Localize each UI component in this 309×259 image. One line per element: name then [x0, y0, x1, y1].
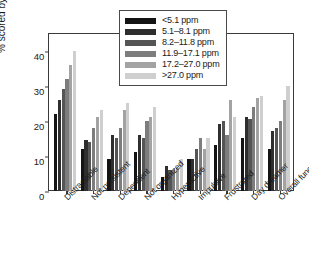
legend-swatch	[125, 18, 156, 24]
bar	[119, 128, 122, 191]
y-axis-tick-label: 40	[34, 51, 49, 61]
y-axis-tick-label: 30	[34, 86, 49, 96]
bar-chart-figure: % scored by teachers 010203040 <5.1 ppm5…	[0, 0, 309, 259]
legend-swatch	[125, 40, 156, 46]
bar	[149, 117, 152, 191]
legend-label: 17.2–27.0 ppm	[162, 60, 219, 69]
legend-label: 8.2–11.8 ppm	[162, 38, 214, 47]
bar	[145, 121, 148, 191]
legend-swatch	[125, 73, 156, 79]
legend-swatch	[125, 51, 156, 57]
bar	[126, 103, 129, 191]
legend-item: 8.2–11.8 ppm	[125, 37, 219, 48]
bar	[256, 98, 259, 191]
bar-group	[241, 33, 264, 191]
bar	[92, 128, 95, 191]
bar	[229, 100, 232, 191]
chart-legend: <5.1 ppm5.1–8.1 ppm8.2–11.8 ppm11.9–17.1…	[119, 10, 227, 86]
bar	[286, 86, 289, 191]
bar	[225, 135, 228, 191]
y-axis-tick-mark	[45, 192, 49, 193]
legend-item: <5.1 ppm	[125, 15, 219, 26]
y-axis-tick-label: 10	[34, 157, 49, 167]
legend-item: 17.2–27.0 ppm	[125, 59, 219, 70]
y-axis-tick-label: 20	[34, 122, 49, 132]
legend-item: 5.1–8.1 ppm	[125, 26, 219, 37]
bar	[123, 110, 126, 191]
bar	[279, 121, 282, 191]
bar	[142, 138, 145, 191]
legend-label: 5.1–8.1 ppm	[162, 27, 210, 36]
bar	[73, 51, 76, 191]
legend-swatch	[125, 29, 156, 35]
bar	[260, 96, 263, 191]
bar	[153, 107, 156, 191]
bar	[69, 65, 72, 191]
bar	[65, 79, 68, 191]
legend-label: <5.1 ppm	[162, 16, 198, 25]
bar	[96, 117, 99, 191]
bar	[54, 114, 57, 191]
legend-item: 11.9–17.1 ppm	[125, 48, 219, 59]
y-axis-tick-label: 0	[39, 192, 49, 202]
bar	[100, 110, 103, 191]
bar	[62, 89, 65, 191]
legend-label: >27.0 ppm	[162, 71, 203, 80]
bar	[283, 100, 286, 191]
y-axis-label: % scored by teachers	[0, 0, 7, 53]
legend-item: >27.0 ppm	[125, 70, 219, 81]
bar-group	[54, 33, 77, 191]
legend-swatch	[125, 62, 156, 68]
bar	[58, 100, 61, 191]
legend-label: 11.9–17.1 ppm	[162, 49, 219, 58]
